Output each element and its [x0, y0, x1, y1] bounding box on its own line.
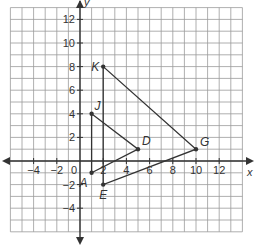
x-tick-label: 4	[123, 164, 129, 176]
origin-label: 0	[71, 164, 77, 176]
point-a	[89, 171, 93, 175]
x-axis-left-arrow-icon	[2, 157, 10, 165]
point-label-k: K	[91, 60, 100, 74]
y-tick-label: 12	[63, 13, 75, 25]
x-tick-label: 12	[213, 164, 225, 176]
y-tick-label: 10	[63, 37, 75, 49]
point-d	[136, 147, 140, 151]
x-tick-label: 10	[190, 164, 202, 176]
point-label-e: E	[99, 188, 108, 202]
y-tick-label: −2	[62, 179, 75, 191]
x-tick-label: −4	[27, 164, 40, 176]
point-g	[194, 147, 198, 151]
x-tick-label: −2	[51, 164, 64, 176]
x-tick-label: 8	[170, 164, 176, 176]
point-label-a: A	[79, 176, 88, 190]
y-tick-label: 8	[69, 61, 75, 73]
point-label-d: D	[142, 134, 151, 148]
point-label-j: J	[94, 99, 102, 113]
y-tick-label: 6	[69, 84, 75, 96]
coordinate-plane: −4−22468101212108642−2−40xy AJDEKG	[0, 0, 259, 245]
y-axis-down-arrow-icon	[76, 237, 84, 245]
y-tick-label: 4	[69, 108, 75, 120]
point-label-g: G	[200, 135, 209, 149]
x-axis-right-arrow-icon	[246, 157, 254, 165]
point-e	[101, 182, 105, 186]
y-tick-label: −4	[62, 202, 75, 214]
y-axis-label: y	[83, 0, 91, 8]
y-axis-up-arrow-icon	[76, 0, 84, 8]
grid-lines	[10, 8, 242, 232]
y-tick-label: 2	[69, 131, 75, 143]
point-j	[89, 112, 93, 116]
points: AJDEKG	[79, 60, 210, 202]
point-k	[101, 64, 105, 68]
x-axis-label: x	[246, 166, 253, 178]
